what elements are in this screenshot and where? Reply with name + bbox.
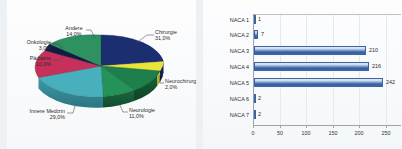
bar-value-naca-6: 2 xyxy=(258,95,261,101)
pie-chart: Chirurgie 31,0% Neurochirurgie 2,0% Neur… xyxy=(7,0,196,149)
pie-label-chirurgie-pct: 31,0% xyxy=(155,35,177,41)
xtick-mark-0 xyxy=(253,125,254,128)
pie-label-onkologie-pct: 3,0% xyxy=(7,45,51,51)
bar-naca-3 xyxy=(254,46,366,55)
gridline-250 xyxy=(386,15,387,125)
pie-label-chirurgie: Chirurgie 31,0% xyxy=(155,29,177,42)
xtick-label-50: 50 xyxy=(277,130,283,136)
bar-value-naca-2: 7 xyxy=(261,31,264,37)
bar-naca-6 xyxy=(254,94,256,103)
bar-value-naca-7: 2 xyxy=(258,111,261,117)
bar-chart: NACA 1 1 NACA 2 7 NACA 3 210 NACA 4 216 … xyxy=(253,14,386,125)
pie-label-neurologie-pct: 11,0% xyxy=(129,113,155,119)
pie-label-andere-text: Andere xyxy=(65,25,82,31)
pie-label-innere-medizin-text: Innere Medizin xyxy=(30,108,65,114)
pie-label-andere-pct: 14,0% xyxy=(57,31,91,37)
xtick-label-250: 250 xyxy=(382,130,391,136)
pie-chart-panel: Chirurgie 31,0% Neurochirurgie 2,0% Neur… xyxy=(7,0,196,149)
plot-top-border xyxy=(253,14,401,15)
bar-value-naca-1: 1 xyxy=(258,16,261,22)
pie-label-paediatrie: Pädiatrie 10,0% xyxy=(7,55,51,68)
pie-label-neurologie-text: Neurologie xyxy=(129,107,155,113)
bar-value-naca-4: 216 xyxy=(372,63,381,69)
bar-category-naca-7: NACA 7 xyxy=(205,112,249,118)
pie-label-neurochirurgie: Neurochirurgie 2,0% xyxy=(165,78,196,91)
bar-category-naca-6: NACA 6 xyxy=(205,96,249,102)
xtick-mark-150 xyxy=(333,125,334,128)
pie-label-neurologie: Neurologie 11,0% xyxy=(129,107,155,120)
pie-label-paediatrie-text: Pädiatrie xyxy=(30,55,51,61)
pie-label-onkologie: Onkologie 3,0% xyxy=(7,39,51,52)
pie-label-andere: Andere 14,0% xyxy=(57,25,91,38)
pie-chart-graphic xyxy=(7,0,196,149)
bar-value-naca-3: 210 xyxy=(369,47,378,53)
bar-chart-panel: NACA 1 1 NACA 2 7 NACA 3 210 NACA 4 216 … xyxy=(203,0,402,149)
bar-naca-5 xyxy=(254,78,383,87)
xtick-mark-200 xyxy=(359,125,360,128)
bar-naca-1 xyxy=(254,15,256,24)
xtick-label-0: 0 xyxy=(252,130,255,136)
pie-label-onkologie-text: Onkologie xyxy=(27,39,51,45)
pie-label-neurochirurgie-text: Neurochirurgie xyxy=(165,78,196,84)
xtick-mark-250 xyxy=(386,125,387,128)
bar-value-naca-5: 242 xyxy=(386,79,395,85)
bar-category-naca-1: NACA 1 xyxy=(205,17,249,23)
bar-naca-4 xyxy=(254,62,369,71)
pie-label-chirurgie-text: Chirurgie xyxy=(155,29,177,35)
bar-naca-2 xyxy=(254,30,258,39)
xtick-label-200: 200 xyxy=(355,130,364,136)
xtick-label-150: 150 xyxy=(329,130,338,136)
bar-category-naca-5: NACA 5 xyxy=(205,80,249,86)
pie-label-innere-medizin-pct: 29,0% xyxy=(7,114,65,120)
x-axis-line xyxy=(253,125,401,126)
bar-category-naca-2: NACA 2 xyxy=(205,32,249,38)
xtick-mark-50 xyxy=(280,125,281,128)
pie-label-neurochirurgie-pct: 2,0% xyxy=(165,84,196,90)
bar-category-naca-4: NACA 4 xyxy=(205,64,249,70)
bar-category-naca-3: NACA 3 xyxy=(205,48,249,54)
xtick-mark-100 xyxy=(306,125,307,128)
pie-label-paediatrie-pct: 10,0% xyxy=(7,61,51,67)
pie-label-innere-medizin: Innere Medizin 29,0% xyxy=(7,108,65,121)
xtick-label-100: 100 xyxy=(302,130,311,136)
two-chart-figure: Chirurgie 31,0% Neurochirurgie 2,0% Neur… xyxy=(0,0,402,149)
bar-naca-7 xyxy=(254,110,256,119)
